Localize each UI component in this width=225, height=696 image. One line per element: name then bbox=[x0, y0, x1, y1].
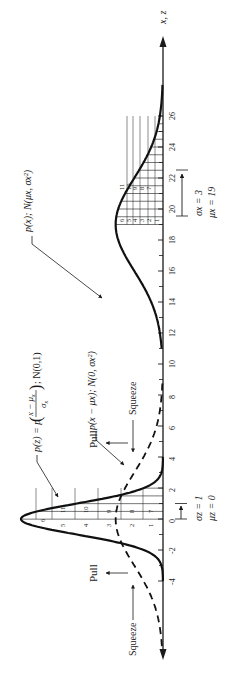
svg-text:9: 9 bbox=[131, 187, 138, 190]
svg-text:3: 3 bbox=[105, 524, 112, 527]
axis-label: x, z bbox=[157, 11, 168, 25]
original-label-leader bbox=[32, 236, 102, 298]
tick-label: 0 bbox=[168, 519, 177, 523]
svg-text:Pull: Pull bbox=[87, 430, 99, 448]
svg-text:5: 5 bbox=[59, 524, 66, 527]
normal-standardization-figure: -4-202468101214161820222426 x, z 6511410… bbox=[0, 0, 225, 696]
tick-label: 2 bbox=[168, 488, 177, 492]
tick-label: 6 bbox=[168, 426, 177, 430]
svg-text:σz = 1: σz = 1 bbox=[193, 495, 204, 521]
svg-text:6: 6 bbox=[39, 518, 46, 522]
svg-text:Pull: Pull bbox=[87, 564, 99, 582]
svg-text:1: 1 bbox=[147, 524, 154, 527]
svg-text:7: 7 bbox=[147, 509, 154, 513]
squeeze-annotation-upper: Squeeze bbox=[127, 381, 138, 452]
standard-grid: 6511410392817 bbox=[21, 488, 163, 527]
svg-text:9: 9 bbox=[105, 510, 112, 513]
svg-text:4: 4 bbox=[131, 218, 138, 222]
sigma-z-marker: σz = 1 μz = 0 bbox=[175, 495, 217, 522]
sigma-x-marker: σx = 3 μx = 19 bbox=[176, 170, 217, 219]
svg-text:): ) bbox=[27, 385, 45, 390]
axis-arrow-up-icon bbox=[160, 36, 167, 47]
pull-annotation-upper: Pull bbox=[87, 430, 128, 448]
svg-text:8: 8 bbox=[128, 510, 135, 513]
axis-arrow-down-icon bbox=[160, 649, 167, 660]
svg-text:7: 7 bbox=[145, 186, 152, 190]
svg-text:1: 1 bbox=[153, 219, 160, 222]
svg-text:6: 6 bbox=[118, 218, 125, 222]
tick-label: 26 bbox=[168, 112, 177, 120]
svg-text:Squeeze: Squeeze bbox=[127, 622, 138, 656]
tick-label: 12 bbox=[168, 329, 177, 337]
svg-text:10: 10 bbox=[82, 507, 89, 514]
svg-text:8: 8 bbox=[138, 187, 145, 190]
tick-label: 18 bbox=[168, 236, 177, 244]
tick-label: 22 bbox=[168, 174, 177, 182]
tick-label: 24 bbox=[168, 143, 177, 151]
svg-text:σx = 3: σx = 3 bbox=[193, 190, 204, 216]
svg-text:σx: σx bbox=[38, 401, 49, 408]
standard-curve-label: p(z) = p x − μx σx ( ) ; N(0,1) bbox=[25, 352, 49, 453]
svg-text:11: 11 bbox=[118, 184, 125, 190]
svg-text:; N(0,1): ; N(0,1) bbox=[31, 352, 43, 384]
tick-label: 8 bbox=[168, 395, 177, 399]
tick-label: -2 bbox=[168, 547, 177, 554]
svg-text:x − μx: x − μx bbox=[25, 394, 36, 417]
svg-text:μx = 19: μx = 19 bbox=[206, 187, 217, 219]
pull-annotation-lower: Pull bbox=[87, 564, 128, 582]
tick-label: -4 bbox=[168, 578, 177, 585]
original-curve-label: p(x); N(μx, σx²) bbox=[22, 169, 34, 233]
tick-label: 16 bbox=[168, 267, 177, 275]
tick-label: 14 bbox=[168, 298, 177, 306]
standard-label-leader bbox=[37, 455, 58, 497]
svg-text:Squeeze: Squeeze bbox=[127, 381, 138, 415]
squeeze-annotation-lower: Squeeze bbox=[127, 585, 138, 656]
svg-text:2: 2 bbox=[128, 524, 135, 527]
svg-text:3: 3 bbox=[138, 219, 145, 222]
tick-label: 20 bbox=[168, 205, 177, 213]
tick-label: 10 bbox=[168, 360, 177, 368]
centered-normal-curve-dashed bbox=[116, 380, 163, 647]
svg-text:2: 2 bbox=[145, 219, 152, 222]
svg-text:p(z) = p: p(z) = p bbox=[31, 420, 43, 453]
svg-text:(: ( bbox=[27, 417, 45, 422]
centered-curve-label: p(x − μx); N(0, σx²) bbox=[86, 350, 98, 431]
svg-text:4: 4 bbox=[82, 523, 89, 527]
svg-text:μz = 0: μz = 0 bbox=[206, 495, 217, 522]
tick-label: 4 bbox=[168, 457, 177, 461]
centered-label-leader bbox=[96, 432, 124, 465]
